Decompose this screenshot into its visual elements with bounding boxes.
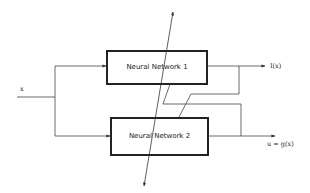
neural-network-2-label: Neural Network 2	[111, 133, 208, 140]
output-2-label: u = g(x)	[267, 141, 294, 148]
adaptation-arrow	[144, 12, 173, 186]
neural-network-1-label: Neural Network 1	[107, 64, 207, 71]
diagram-canvas	[0, 0, 310, 193]
input-connector	[17, 66, 110, 136]
output-1-label: I(x)	[270, 63, 281, 70]
feedback-paths	[163, 66, 241, 136]
input-label: x	[20, 86, 24, 93]
